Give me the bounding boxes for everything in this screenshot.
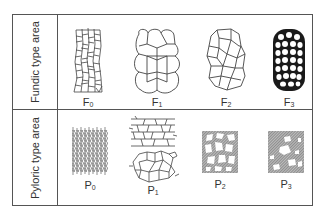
p1-label: P1 [147, 184, 158, 199]
f3-label: F3 [284, 96, 295, 111]
pattern-p1: P1 [123, 116, 183, 199]
pattern-p3: P3 [256, 128, 316, 193]
pyloric-row-label: Pyloric type area [12, 110, 57, 206]
f3-pattern-icon [267, 26, 311, 94]
f2-pattern-icon [201, 26, 251, 94]
p1-pattern-icon [125, 116, 181, 186]
fundic-row-label: Fundic type area [12, 14, 57, 109]
fundic-label-text: Fundic type area [29, 21, 41, 103]
f2-label: F2 [221, 96, 232, 111]
f1-label: F1 [152, 96, 163, 111]
p3-label: P3 [280, 178, 291, 193]
p0-label: P0 [84, 179, 95, 194]
p2-label: P2 [214, 178, 225, 193]
pyloric-label-text: Pyloric type area [29, 117, 41, 199]
pattern-f1: F1 [127, 26, 187, 111]
p3-pattern-icon [264, 128, 308, 176]
f0-pattern-icon [68, 26, 108, 94]
pattern-f0: F0 [58, 26, 118, 111]
f1-pattern-icon [127, 26, 187, 94]
pattern-p0: P0 [60, 127, 120, 194]
p0-pattern-icon [68, 127, 112, 177]
pattern-f3: F3 [259, 26, 319, 111]
f0-label: F0 [83, 96, 94, 111]
p2-pattern-icon [198, 128, 242, 176]
pattern-p2: P2 [190, 128, 250, 193]
pattern-f2: F2 [196, 26, 256, 111]
